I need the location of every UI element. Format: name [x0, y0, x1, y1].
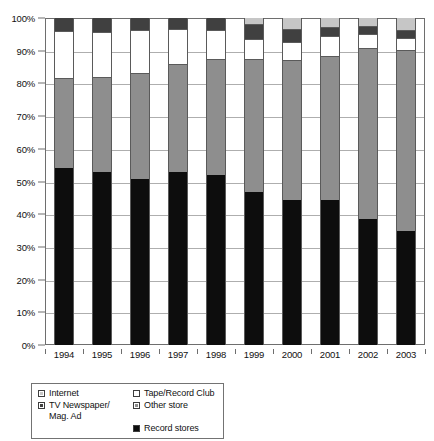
bar-segment[interactable]	[207, 175, 225, 345]
stacked-bar[interactable]	[320, 18, 340, 345]
bar-segment[interactable]	[321, 36, 339, 57]
y-axis-tick-label: 80%	[17, 78, 35, 89]
stacked-bar[interactable]	[396, 18, 416, 345]
y-axis-tick-label: 60%	[17, 143, 35, 154]
bar-slot	[235, 18, 273, 345]
y-axis-tick-label: 70%	[17, 111, 35, 122]
bar-segment[interactable]	[207, 18, 225, 30]
stacked-bar[interactable]	[358, 18, 378, 345]
bar-segment[interactable]	[283, 18, 301, 30]
bar-segment[interactable]	[283, 42, 301, 61]
bar-segment[interactable]	[169, 29, 187, 65]
bar-segment[interactable]	[397, 231, 415, 345]
bar-segment[interactable]	[397, 38, 415, 51]
bar-segment[interactable]	[321, 200, 339, 345]
y-axis-tick-mark	[38, 148, 45, 149]
x-axis-tick-label: 1998	[197, 349, 235, 360]
stacked-bar[interactable]	[244, 18, 264, 345]
legend-item-internet[interactable]: Internet	[38, 388, 133, 399]
bar-segment[interactable]	[359, 219, 377, 345]
x-axis-tick-mark	[349, 349, 350, 354]
y-axis-tick-mark	[38, 312, 45, 313]
bar-segment[interactable]	[55, 168, 73, 345]
bar-segment[interactable]	[397, 51, 415, 231]
bar-segment[interactable]	[245, 192, 263, 345]
stacked-bar[interactable]	[282, 18, 302, 345]
x-axis-tick-mark	[235, 349, 236, 354]
bar-segment[interactable]	[131, 74, 149, 179]
bar-segment[interactable]	[321, 18, 339, 28]
stacked-bar[interactable]	[206, 18, 226, 345]
y-axis-tick-label: 0%	[22, 340, 35, 351]
bar-segment[interactable]	[93, 32, 111, 78]
bar-slot	[159, 18, 197, 345]
bar-segment[interactable]	[359, 18, 377, 27]
bar-segment[interactable]	[131, 30, 149, 74]
bar-segment[interactable]	[93, 78, 111, 172]
y-axis-tick-label: 100%	[12, 13, 36, 24]
x-axis-tick-mark	[159, 349, 160, 354]
y-axis-tick-mark	[38, 246, 45, 247]
x-axis-tick-label: 2002	[349, 349, 387, 360]
bar-segment[interactable]	[245, 18, 263, 25]
bar-segment[interactable]	[245, 60, 263, 191]
bar-segment[interactable]	[245, 25, 263, 39]
bar-segment[interactable]	[131, 18, 149, 30]
legend-label-other: Other store	[144, 400, 188, 411]
bar-segment[interactable]	[359, 27, 377, 34]
stacked-bar[interactable]	[92, 18, 112, 345]
legend-item-record[interactable]: Record stores	[133, 423, 218, 434]
x-axis-tick-mark	[387, 349, 388, 354]
bar-segment[interactable]	[55, 79, 73, 168]
bar-slot	[197, 18, 235, 345]
bar-segment[interactable]	[283, 200, 301, 345]
bar-segment[interactable]	[55, 31, 73, 79]
bar-segment[interactable]	[93, 18, 111, 32]
bar-segment[interactable]	[169, 172, 187, 345]
y-axis-tick-label: 10%	[17, 307, 35, 318]
x-axis-tick-label: 2001	[311, 349, 349, 360]
legend-item-tape[interactable]: Tape/Record Club	[133, 388, 218, 399]
bar-segment[interactable]	[359, 34, 377, 49]
x-axis-tick-label: 2003	[387, 349, 425, 360]
legend-item-other[interactable]: Other store	[133, 400, 218, 422]
bar-segment[interactable]	[169, 65, 187, 172]
bar-segment[interactable]	[207, 60, 225, 175]
x-axis-tick-mark	[45, 349, 46, 354]
bar-segment[interactable]	[321, 28, 339, 36]
x-axis-tick-label: 1996	[121, 349, 159, 360]
bar-slot	[121, 18, 159, 345]
bar-slot	[311, 18, 349, 345]
legend-grid: InternetTape/Record ClubTV Newspaper/ Ma…	[38, 388, 218, 434]
bar-segment[interactable]	[131, 179, 149, 345]
bar-segment[interactable]	[245, 39, 263, 60]
legend-spacer	[38, 423, 133, 434]
stacked-bar[interactable]	[130, 18, 150, 345]
bar-segment[interactable]	[359, 49, 377, 219]
legend-swatch-other	[133, 402, 140, 409]
bar-slot	[83, 18, 121, 345]
legend-item-tv[interactable]: TV Newspaper/ Mag. Ad	[38, 400, 133, 422]
stacked-bar[interactable]	[168, 18, 188, 345]
x-axis-tick-mark	[273, 349, 274, 354]
legend-label-internet: Internet	[49, 388, 79, 399]
bar-segment[interactable]	[283, 61, 301, 200]
y-axis-tick-label: 90%	[17, 45, 35, 56]
y-axis-tick-mark	[38, 214, 45, 215]
bar-segment[interactable]	[93, 172, 111, 345]
bar-segment[interactable]	[397, 18, 415, 31]
x-axis-tick-mark	[83, 349, 84, 354]
bar-segment[interactable]	[321, 57, 339, 201]
bar-segment[interactable]	[55, 18, 73, 31]
stacked-bar-chart: 100%90%80%70%60%50%40%30%20%10%0% 199419…	[0, 0, 434, 441]
bar-segment[interactable]	[169, 18, 187, 29]
stacked-bar[interactable]	[54, 18, 74, 345]
x-axis: 1994199519961997199819992000200120022003	[45, 349, 425, 360]
x-axis-tick-mark	[121, 349, 122, 354]
x-axis-tick-mark	[311, 349, 312, 354]
bar-segment[interactable]	[207, 30, 225, 60]
legend-swatch-record	[133, 425, 140, 432]
legend-label-record: Record stores	[144, 423, 199, 434]
bar-segment[interactable]	[283, 30, 301, 42]
x-axis-tick-label: 2000	[273, 349, 311, 360]
